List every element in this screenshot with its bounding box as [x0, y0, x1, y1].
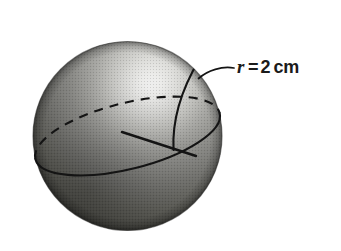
- radius-label-variable: r: [237, 56, 245, 77]
- radius-label-unit: cm: [273, 57, 299, 77]
- label-leader-line-group: [199, 67, 235, 78]
- radius-label-equals: =: [248, 57, 259, 77]
- radius-label: r=2cm: [237, 57, 299, 76]
- label-leader-line: [199, 67, 235, 78]
- figure-container: r=2cm: [0, 0, 341, 251]
- radius-label-value: 2: [260, 57, 270, 77]
- sphere-figure-svg: [0, 0, 341, 251]
